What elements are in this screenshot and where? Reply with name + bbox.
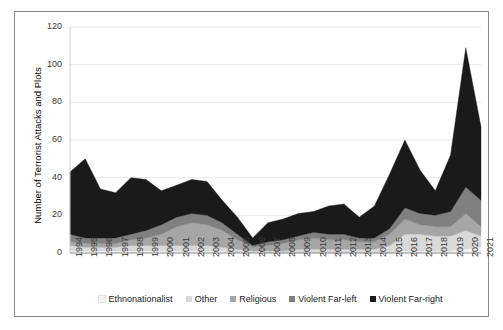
x-tick-label: 1994: [74, 237, 84, 257]
legend-swatch-icon: [230, 296, 236, 302]
y-tick-label: 100: [36, 59, 62, 69]
x-tick-label: 2015: [394, 237, 404, 257]
x-tick-label: 1998: [135, 237, 145, 257]
legend-swatch-icon: [98, 295, 106, 303]
x-tick-label: 1996: [104, 237, 114, 257]
legend-item[interactable]: Ethnonationalist: [98, 294, 173, 304]
x-tick-label: 2018: [439, 237, 449, 257]
legend-item-label: Ethnonationalist: [109, 294, 173, 304]
x-tick-label: 2005: [241, 237, 251, 257]
stacked-area-chart: [0, 0, 503, 330]
legend-item-label: Other: [195, 294, 218, 304]
x-tick-label: 2001: [181, 237, 191, 257]
y-tick-label: 60: [36, 134, 62, 144]
x-tick-label: 1997: [120, 237, 130, 257]
x-tick-label: 2016: [409, 237, 419, 257]
legend-item-label: Violent Far-left: [298, 294, 356, 304]
chart-figure: Number of Terrorist Attacks and Plots 02…: [0, 0, 503, 330]
legend-item-label: Religious: [239, 294, 276, 304]
legend-item-label: Violent Far-right: [379, 294, 443, 304]
y-tick-label: 0: [36, 247, 62, 257]
y-tick-label: 120: [36, 21, 62, 31]
x-tick-label: 2002: [196, 237, 206, 257]
x-tick-label: 1999: [150, 237, 160, 257]
x-tick-label: 2019: [455, 237, 465, 257]
legend-item[interactable]: Religious: [230, 294, 276, 304]
x-tick-label: 2009: [302, 237, 312, 257]
legend-item[interactable]: Other: [186, 294, 218, 304]
legend-swatch-icon: [186, 296, 192, 302]
x-tick-label: 2007: [272, 237, 282, 257]
x-tick-label: 2012: [348, 237, 358, 257]
x-tick-label: 2008: [287, 237, 297, 257]
y-tick-label: 20: [36, 209, 62, 219]
x-tick-label: 2020: [470, 237, 480, 257]
y-tick-label: 80: [36, 96, 62, 106]
legend-swatch-icon: [289, 296, 295, 302]
x-tick-label: 2017: [424, 237, 434, 257]
x-tick-label: 2014: [378, 237, 388, 257]
x-tick-label: 2021: [485, 237, 495, 257]
legend-swatch-icon: [370, 296, 376, 302]
x-tick-label: 2004: [226, 237, 236, 257]
x-tick-label: 2011: [333, 238, 343, 257]
x-tick-label: 2000: [165, 237, 175, 257]
legend-item[interactable]: Violent Far-left: [289, 294, 356, 304]
x-tick-label: 2003: [211, 237, 221, 257]
x-tick-label: 1995: [89, 237, 99, 257]
x-tick-label: 2006: [257, 237, 267, 257]
x-tick-label: 2013: [363, 237, 373, 257]
x-tick-label: 2010: [318, 237, 328, 257]
y-tick-label: 40: [36, 172, 62, 182]
chart-legend: EthnonationalistOtherReligiousViolent Fa…: [60, 294, 480, 304]
legend-item[interactable]: Violent Far-right: [370, 294, 443, 304]
